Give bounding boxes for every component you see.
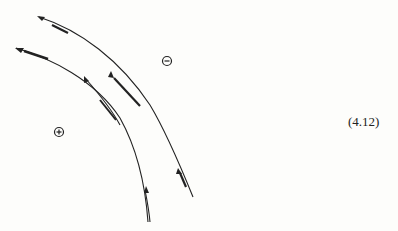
inner-curve — [16, 48, 148, 222]
plus-region-icon — [55, 128, 64, 137]
arrow-head-icon — [144, 186, 149, 193]
diagram-canvas: (4.12) — [0, 0, 398, 231]
arrow-shaft — [52, 25, 68, 33]
arrow-shaft — [180, 173, 186, 187]
arrow-head-icon — [37, 16, 45, 21]
minus-region-icon — [163, 57, 172, 66]
arrow-shaft — [24, 51, 48, 59]
arrow-head-icon — [108, 71, 114, 78]
curves-figure — [0, 0, 398, 231]
arrow-shaft — [114, 78, 140, 106]
equation-label: (4.12) — [348, 114, 379, 130]
outer-curve — [39, 17, 193, 197]
